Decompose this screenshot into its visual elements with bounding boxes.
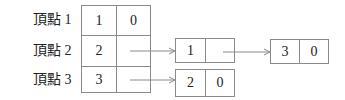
adjacency-list-diagram: 頂點 1 頂點 2 頂點 3 1 0 2 3 1 3 0 2 0: [0, 0, 345, 100]
pointer-arrows: [0, 0, 345, 100]
